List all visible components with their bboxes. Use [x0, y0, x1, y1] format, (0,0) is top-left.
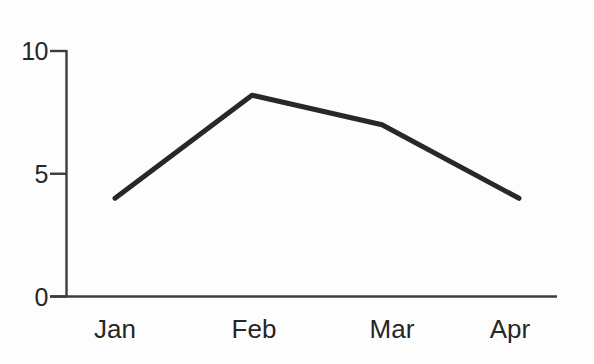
- x-category-label: Jan: [94, 314, 136, 344]
- x-category-label: Apr: [490, 314, 531, 344]
- y-tick-label: 10: [21, 37, 48, 65]
- chart-background: [0, 0, 594, 364]
- y-tick-label: 0: [35, 283, 48, 311]
- y-tick-label: 5: [35, 160, 48, 188]
- chart-canvas: 0510JanFebMarApr: [0, 0, 594, 364]
- line-chart: 0510JanFebMarApr: [0, 0, 594, 364]
- x-category-label: Mar: [370, 314, 415, 344]
- x-category-label: Feb: [232, 314, 277, 344]
